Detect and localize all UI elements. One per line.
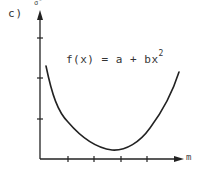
x-axis xyxy=(40,156,184,162)
y-axis-arrow-icon xyxy=(37,10,43,20)
quadratic-figure-panel-c: c) σ̄ m f(x) = a + bx2 xyxy=(0,0,202,172)
y-axis xyxy=(37,10,43,159)
parabola-curve xyxy=(46,66,179,150)
plot-area xyxy=(0,0,202,172)
x-axis-arrow-icon xyxy=(174,156,184,162)
